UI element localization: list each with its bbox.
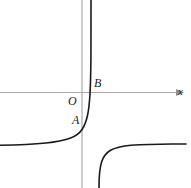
graph-canvas <box>0 0 191 188</box>
graph-figure: O A B x <box>0 0 191 188</box>
point-b-label: B <box>94 77 101 89</box>
origin-label: O <box>68 95 77 107</box>
curve-right-branch <box>99 144 186 188</box>
x-axis-label: x <box>178 86 183 97</box>
point-a-label: A <box>72 114 79 126</box>
